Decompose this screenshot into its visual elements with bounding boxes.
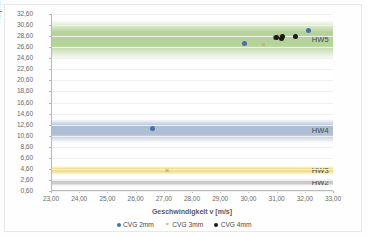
chart-screenshot: Aufprallenergie Eh[J] Geschwindigkeit v …: [0, 0, 368, 238]
gridline: [52, 169, 333, 170]
y-tick-label: 18,60: [17, 87, 33, 94]
legend-marker-cvg-2mm: [117, 223, 121, 227]
y-tick-label: 22,60: [17, 65, 33, 72]
band-label-hw4: HW4: [312, 126, 329, 135]
legend-item-cvg-4mm[interactable]: CVG 4mm: [214, 221, 251, 228]
y-tick-label: 10,60: [17, 132, 33, 139]
y-tick-label: 26,60: [17, 43, 33, 50]
x-tick-label: 30,00: [233, 195, 263, 202]
gridline: [52, 136, 333, 137]
band-hw4: [52, 119, 333, 143]
legend-label-cvg-3mm: CVG 3mm: [172, 221, 203, 228]
gridline: [52, 58, 333, 59]
gridline: [52, 191, 333, 192]
legend-item-cvg-2mm[interactable]: CVG 2mm: [117, 221, 154, 228]
y-tick-label: 14,60: [17, 110, 33, 117]
data-point-cvg-3mm: ×: [260, 41, 267, 48]
y-tick-label: 16,60: [17, 99, 33, 106]
x-tick-label: 25,00: [92, 195, 122, 202]
y-tick-label: 6,60: [21, 154, 33, 161]
gridline: [52, 147, 333, 148]
y-tick-label: 32,60: [17, 10, 33, 17]
y-tick-label: 20,60: [17, 76, 33, 83]
legend-label-cvg-2mm: CVG 2mm: [123, 221, 154, 228]
band-hw3: [52, 166, 333, 175]
chart-legend: CVG 2mm×CVG 3mmCVG 4mm: [0, 221, 368, 228]
y-tick-label: 2,60: [21, 176, 33, 183]
x-tick-label: 33,00: [318, 195, 348, 202]
y-tick-label: 0,60: [21, 187, 33, 194]
y-tick-label: 8,60: [21, 143, 33, 150]
x-tick-mark: [333, 191, 334, 193]
x-tick-label: 23,00: [36, 195, 66, 202]
x-tick-label: 31,00: [262, 195, 292, 202]
legend-item-cvg-3mm[interactable]: ×CVG 3mm: [165, 221, 203, 228]
gridline: [52, 25, 333, 26]
x-tick-label: 32,00: [290, 195, 320, 202]
data-point-cvg-3mm: ×: [164, 167, 171, 174]
x-tick-label: 28,00: [177, 195, 207, 202]
band-label-hw3: HW3: [312, 166, 329, 175]
gridline: [52, 69, 333, 70]
gridline: [52, 103, 333, 104]
y-tick-label: 4,60: [21, 165, 33, 172]
gridline: [52, 47, 333, 48]
gridline: [52, 125, 333, 126]
y-tick-label: 12,60: [17, 121, 33, 128]
legend-label-cvg-4mm: CVG 4mm: [221, 221, 252, 228]
y-tick-label: 24,60: [17, 54, 33, 61]
legend-marker-cvg-3mm: ×: [165, 222, 170, 227]
x-tick-label: 24,00: [64, 195, 94, 202]
x-axis-title: Geschwindigkeit v [m/s]: [51, 208, 333, 215]
gridline: [52, 91, 333, 92]
gridline: [52, 14, 333, 15]
x-tick-label: 26,00: [121, 195, 151, 202]
y-tick-label: 30,60: [17, 21, 33, 28]
gridline: [52, 80, 333, 81]
y-axis-title: Aufprallenergie Eh[J]: [0, 0, 1, 50]
x-tick-label: 29,00: [205, 195, 235, 202]
y-tick-label: 28,60: [17, 32, 33, 39]
plot-area: HW5HW4HW3HW2 ×××: [51, 14, 333, 191]
data-point-cvg-4mm: [280, 34, 285, 39]
gridline: [52, 158, 333, 159]
gridline: [52, 36, 333, 37]
gridline: [52, 114, 333, 115]
data-point-cvg-2mm: [242, 41, 247, 46]
gridline: [52, 180, 333, 181]
x-tick-label: 27,00: [149, 195, 179, 202]
legend-marker-cvg-4mm: [214, 223, 218, 227]
